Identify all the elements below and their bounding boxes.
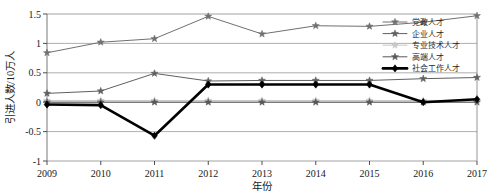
legend-label-专业技术人才: 专业技术人才 xyxy=(412,40,460,50)
xtick-label-2011: 2011 xyxy=(145,168,165,179)
marker-企业人才-2011 xyxy=(151,70,158,77)
legend-label-党政人才: 党政人才 xyxy=(412,17,444,27)
marker-党政人才-2015 xyxy=(366,23,373,30)
ytick-label-1.5: 1.5 xyxy=(29,9,42,20)
series-line-社会工作人才 xyxy=(47,85,477,136)
ytick-label-0: 0 xyxy=(36,97,41,108)
marker-党政人才-2013 xyxy=(258,30,265,37)
legend-marker-企业人才 xyxy=(391,30,398,37)
xtick-label-2016: 2016 xyxy=(413,168,433,179)
x-axis-title: 年份 xyxy=(252,180,273,192)
legend-marker-专业技术人才 xyxy=(391,42,398,49)
chart-legend: 党政人才企业人才专业技术人才高端人才社会工作人才 xyxy=(383,17,460,73)
series-社会工作人才 xyxy=(44,81,480,139)
legend-label-高端人才: 高端人才 xyxy=(412,52,444,62)
ytick-label-0.5: 0.5 xyxy=(29,67,42,78)
ytick-label--1: -1 xyxy=(33,156,41,167)
marker-党政人才-2011 xyxy=(151,35,158,42)
chart-canvas: -1-0.500.511.520092010201120122013201420… xyxy=(0,0,502,193)
ytick-label--0.5: -0.5 xyxy=(25,126,41,137)
legend-marker-社会工作人才 xyxy=(392,65,398,72)
marker-企业人才-2016 xyxy=(420,75,427,82)
xtick-label-2010: 2010 xyxy=(91,168,111,179)
xtick-label-2009: 2009 xyxy=(37,168,57,179)
legend-marker-高端人才 xyxy=(391,53,398,60)
xtick-label-2017: 2017 xyxy=(467,168,487,179)
marker-党政人才-2010 xyxy=(97,39,104,46)
legend-label-企业人才: 企业人才 xyxy=(412,29,444,39)
xtick-label-2014: 2014 xyxy=(306,168,326,179)
xtick-label-2015: 2015 xyxy=(360,168,380,179)
xtick-label-2012: 2012 xyxy=(198,168,218,179)
xtick-label-2013: 2013 xyxy=(252,168,272,179)
legend-label-社会工作人才: 社会工作人才 xyxy=(412,63,460,73)
y-axis-title: 引进人数/10万人 xyxy=(4,50,16,124)
marker-党政人才-2014 xyxy=(312,22,319,29)
marker-企业人才-2010 xyxy=(97,87,104,94)
line-chart: -1-0.500.511.520092010201120122013201420… xyxy=(0,0,502,193)
ytick-label-1: 1 xyxy=(36,38,41,49)
